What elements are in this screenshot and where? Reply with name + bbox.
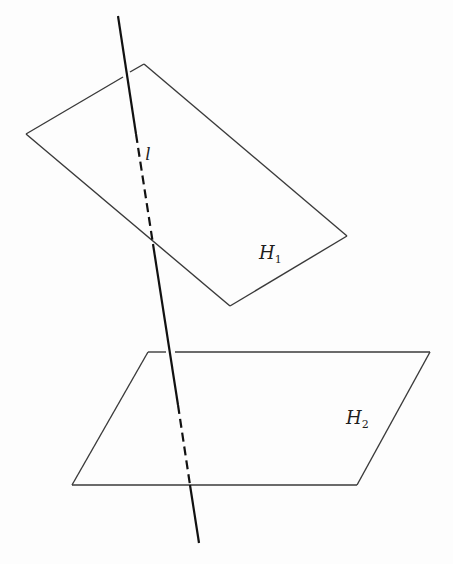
plane-h1-edge-bottom-left xyxy=(26,134,230,306)
plane-label-h1-main: H xyxy=(259,242,275,263)
two-planes-line-figure xyxy=(0,0,453,564)
plane-h1-edge-top-left-a xyxy=(26,77,123,134)
plane-label-h1-sub: 1 xyxy=(275,253,282,266)
plane-label-h1: H1 xyxy=(259,244,282,265)
plane-h1-edge-top-right xyxy=(144,64,347,236)
plane-h1 xyxy=(26,64,347,306)
line-l-dashed-lower xyxy=(178,405,190,485)
plane-label-h2-main: H xyxy=(346,407,362,428)
plane-h2 xyxy=(72,352,430,485)
line-l-solid-top xyxy=(118,16,136,134)
plane-h2-edge-left xyxy=(72,352,148,485)
line-label-l: l xyxy=(145,144,150,163)
plane-h1-edge-bottom-right xyxy=(230,236,347,306)
line-l-solid-bottom xyxy=(190,485,199,543)
diagram-canvas: l H1 H2 xyxy=(0,0,453,564)
line-l-solid-middle xyxy=(153,244,178,405)
plane-h1-edge-top-left-b xyxy=(130,64,144,72)
line-l xyxy=(118,16,199,543)
plane-label-h2: H2 xyxy=(346,409,369,430)
plane-label-h2-sub: 2 xyxy=(362,418,369,431)
